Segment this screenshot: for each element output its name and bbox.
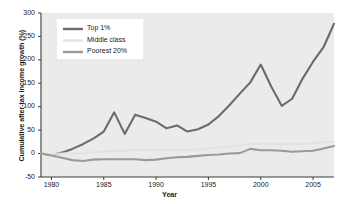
y-tick-label: -50 — [13, 173, 35, 180]
line-chart — [0, 0, 339, 204]
x-tick-label: 1990 — [141, 181, 171, 188]
x-tick-label: 2000 — [246, 181, 276, 188]
x-tick-label: 1980 — [36, 181, 66, 188]
legend-entry-label: Middle class — [87, 36, 126, 43]
chart-figure: -50050100150200250300 198019851990199520… — [0, 0, 339, 204]
x-axis-title: Year — [0, 190, 339, 199]
plot-area-wrapper — [0, 0, 339, 204]
y-tick-label: 300 — [13, 9, 35, 16]
x-tick-label: 1985 — [89, 181, 119, 188]
y-axis-title: Cumulative after-tax income growth (%) — [17, 32, 26, 162]
legend-entry-label: Poorest 20% — [87, 47, 127, 54]
x-tick-label: 2005 — [298, 181, 328, 188]
x-tick-label: 1995 — [193, 181, 223, 188]
legend-entry-label: Top 1% — [87, 24, 110, 31]
